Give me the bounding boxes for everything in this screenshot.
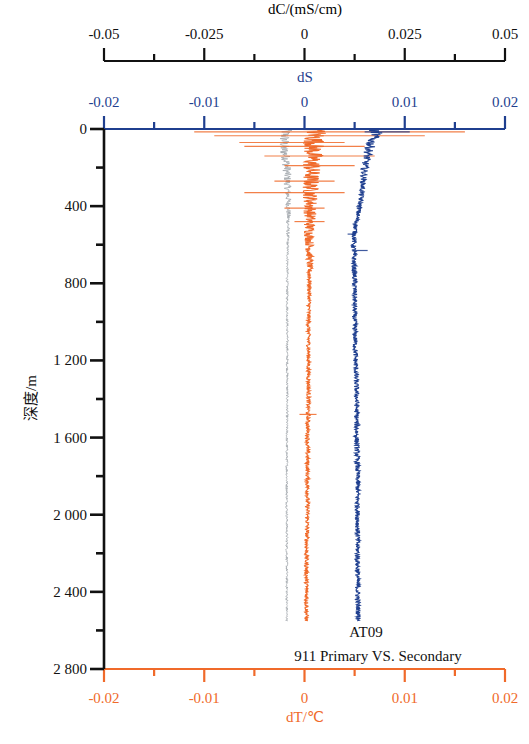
- series-dc: [280, 129, 292, 621]
- dt-tick-label: -0.02: [88, 690, 119, 706]
- depth-tick-label: 800: [65, 275, 88, 291]
- dc-tick-label: 0: [301, 26, 309, 42]
- dc-tick-label: 0.025: [388, 26, 422, 42]
- depth-tick-label: 2 000: [53, 507, 87, 523]
- series-dt: [194, 129, 465, 621]
- depth-tick-label: 1 600: [53, 430, 87, 446]
- depth-tick-label: 400: [65, 198, 88, 214]
- ds-axis-title: dS: [297, 69, 313, 85]
- ds-tick-label: 0.02: [492, 94, 518, 110]
- dc-tick-label: 0.05: [492, 26, 518, 42]
- dt-tick-label: 0: [301, 690, 309, 706]
- depth-tick-label: 2 400: [53, 584, 87, 600]
- station-label: AT09: [349, 624, 382, 640]
- dt-tick-label: 0.02: [492, 690, 518, 706]
- depth-axis-title: 深度/m: [23, 375, 39, 421]
- series-dc-line: [280, 129, 292, 621]
- dc-axis-title: dC/(mS/cm): [268, 1, 342, 18]
- depth-tick-label: 2 800: [53, 661, 87, 677]
- ds-tick-label: 0.01: [392, 94, 418, 110]
- dc-tick-label: -0.05: [88, 26, 119, 42]
- series-ds: [348, 129, 410, 621]
- series-dt-line: [302, 129, 326, 621]
- series-layer: [194, 129, 465, 621]
- comparison-label: 911 Primary VS. Secondary: [294, 648, 462, 664]
- dt-axis-title: dT/℃: [286, 709, 324, 725]
- dt-tick-label: -0.01: [189, 690, 220, 706]
- ds-tick-label: -0.01: [189, 94, 220, 110]
- ds-tick-label: -0.02: [88, 94, 119, 110]
- depth-tick-label: 1 200: [53, 352, 87, 368]
- ds-tick-label: 0: [301, 94, 309, 110]
- dc-tick-label: -0.025: [185, 26, 224, 42]
- depth-profile-chart: -0.05-0.02500.0250.05-0.02-0.0100.010.02…: [0, 0, 529, 744]
- dt-tick-label: 0.01: [392, 690, 418, 706]
- axes-layer: -0.05-0.02500.0250.05-0.02-0.0100.010.02…: [53, 26, 518, 706]
- series-ds-line: [352, 129, 383, 621]
- depth-tick-label: 0: [80, 121, 88, 137]
